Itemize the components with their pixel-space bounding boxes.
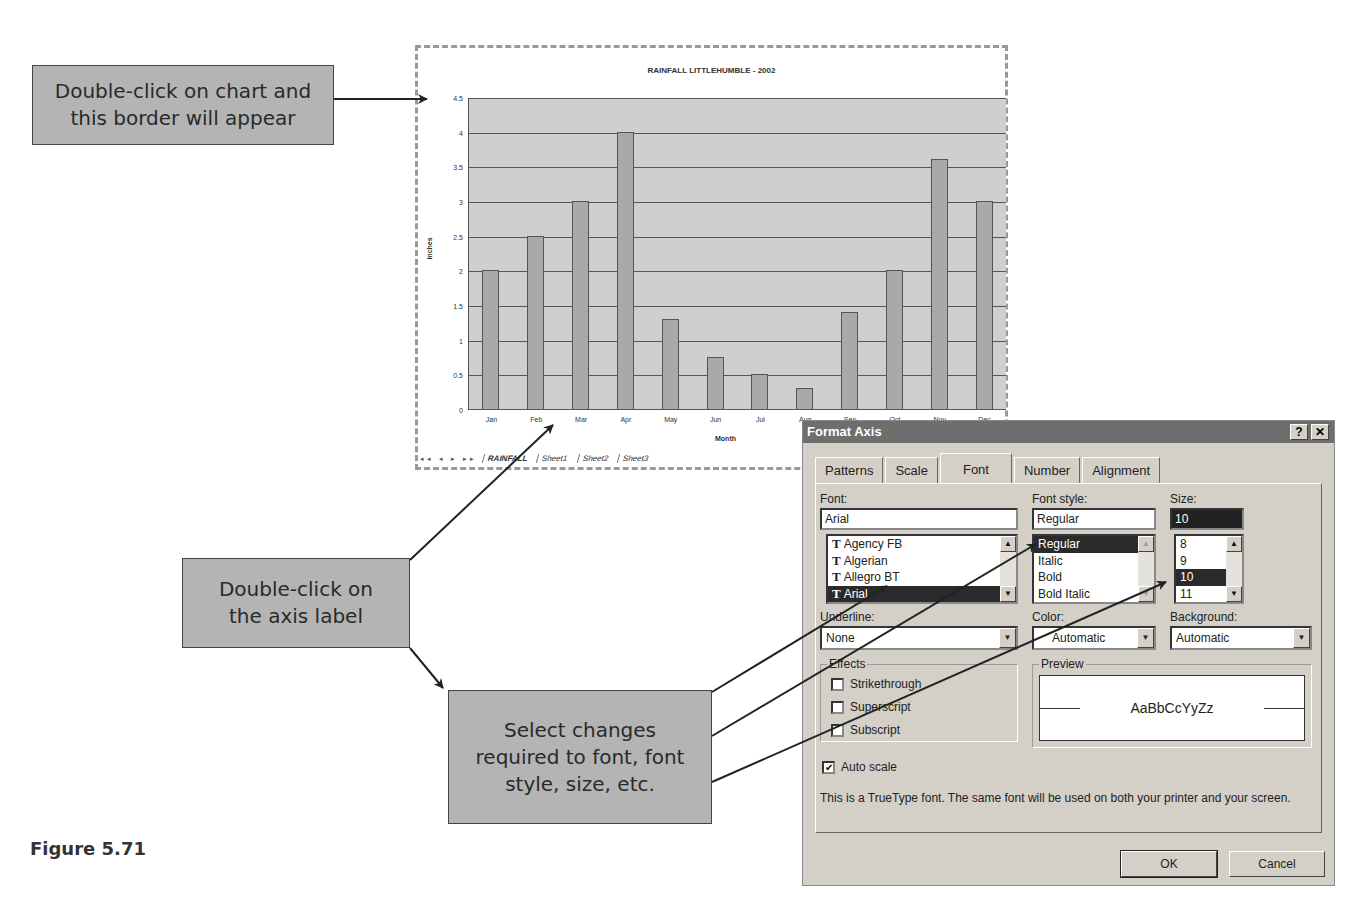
sheet-nav-arrows-icon[interactable]: ◂◂ ◂ ▸ ▸▸ (420, 455, 477, 463)
checkbox-icon[interactable] (831, 678, 844, 691)
y-tick-label[interactable]: 2.5 (439, 233, 463, 240)
bar-jan[interactable] (482, 270, 499, 409)
font-style-option[interactable]: Bold Italic (1034, 586, 1154, 603)
font-style-option[interactable]: Bold (1034, 569, 1154, 586)
bar-oct[interactable] (886, 270, 903, 409)
scroll-down-icon[interactable]: ▼ (1226, 586, 1242, 602)
bar-nov[interactable] (931, 159, 948, 409)
font-input[interactable]: Arial (820, 508, 1018, 530)
x-tick-label[interactable]: Apr (606, 416, 646, 423)
y-axis-title[interactable]: Inches (426, 237, 433, 259)
chevron-down-icon[interactable]: ▼ (999, 628, 1016, 648)
sheet-tab-rainfall[interactable]: RAINFALL (482, 454, 533, 463)
chart-window[interactable]: RAINFALL LITTLEHUMBLE - 2002 Inches 00.5… (415, 45, 1008, 470)
help-button[interactable]: ? (1290, 424, 1308, 440)
gridline[interactable] (469, 167, 1006, 168)
font-tab-panel: Font: Arial TAgency FB TAlgerian TAllegr… (815, 483, 1322, 833)
chart-title[interactable]: RAINFALL LITTLEHUMBLE - 2002 (420, 66, 1003, 75)
size-input[interactable]: 10 (1170, 508, 1244, 530)
checkmark-icon[interactable]: ✔ (822, 761, 835, 774)
chart-area[interactable]: RAINFALL LITTLEHUMBLE - 2002 Inches 00.5… (420, 50, 1003, 449)
bar-feb[interactable] (527, 236, 544, 409)
size-list[interactable]: 8 9 10 11 ▲ ▼ (1174, 534, 1244, 604)
tab-patterns[interactable]: Patterns (815, 457, 883, 483)
plot-area[interactable]: 00.511.522.533.544.5JanFebMarAprMayJunJu… (468, 98, 1006, 410)
background-select[interactable]: Automatic ▼ (1170, 626, 1312, 650)
underline-select[interactable]: None ▼ (820, 626, 1018, 650)
x-tick-label[interactable]: Jun (696, 416, 736, 423)
font-list[interactable]: TAgency FB TAlgerian TAllegro BT TArial … (826, 534, 1018, 604)
bar-sep[interactable] (841, 312, 858, 409)
gridline[interactable] (469, 133, 1006, 134)
bar-apr[interactable] (617, 132, 634, 409)
checkbox-icon[interactable] (831, 701, 844, 714)
bar-jun[interactable] (707, 357, 724, 409)
sheet-tab-sheet2[interactable]: Sheet2 (577, 454, 614, 463)
size-list-scrollbar[interactable]: ▲ ▼ (1226, 536, 1242, 602)
x-axis-title[interactable]: Month (715, 435, 736, 442)
y-tick-label[interactable]: 1 (439, 337, 463, 344)
sheet-tab-sheet3[interactable]: Sheet3 (617, 454, 654, 463)
x-tick-label[interactable]: Feb (516, 416, 556, 423)
auto-scale-checkbox[interactable]: ✔ Auto scale (822, 760, 897, 774)
font-option[interactable]: TAgency FB (828, 536, 1016, 553)
y-tick-label[interactable]: 3 (439, 199, 463, 206)
x-tick-label[interactable]: Jan (471, 416, 511, 423)
dialog-titlebar[interactable]: Format Axis ? ✕ (803, 421, 1334, 443)
bar-may[interactable] (662, 319, 679, 409)
y-tick-label[interactable]: 3.5 (439, 164, 463, 171)
font-option-selected[interactable]: TArial (828, 586, 1016, 603)
strikethrough-checkbox[interactable]: Strikethrough (831, 677, 921, 691)
ok-button[interactable]: OK (1121, 851, 1217, 877)
color-select[interactable]: Automatic ▼ (1032, 626, 1156, 650)
bar-mar[interactable] (572, 201, 589, 409)
gridline[interactable] (469, 341, 1006, 342)
chevron-down-icon[interactable]: ▼ (1293, 628, 1310, 648)
gridline[interactable] (469, 271, 1006, 272)
scroll-up-icon[interactable]: ▲ (1000, 536, 1016, 552)
scroll-down-icon[interactable]: ▼ (1000, 586, 1016, 602)
font-list-scrollbar[interactable]: ▲ ▼ (1000, 536, 1016, 602)
font-style-option-selected[interactable]: Regular (1034, 536, 1138, 553)
preview-baseline-right (1264, 708, 1304, 709)
tab-number[interactable]: Number (1014, 457, 1080, 483)
font-style-option[interactable]: Italic (1034, 553, 1154, 570)
font-style-list[interactable]: Regular Italic Bold Bold Italic ▲ ▼ (1032, 534, 1156, 604)
callout-axis-label: Double-click on the axis label (182, 558, 410, 648)
scroll-up-icon[interactable]: ▲ (1138, 536, 1154, 552)
gridline[interactable] (469, 375, 1006, 376)
y-tick-label[interactable]: 2 (439, 268, 463, 275)
y-tick-label[interactable]: 4.5 (439, 95, 463, 102)
y-tick-label[interactable]: 1.5 (439, 303, 463, 310)
x-tick-label[interactable]: May (651, 416, 691, 423)
bar-jul[interactable] (751, 374, 768, 409)
y-tick-label[interactable]: 0 (439, 407, 463, 414)
tab-alignment[interactable]: Alignment (1082, 457, 1160, 483)
font-style-scrollbar[interactable]: ▲ ▼ (1138, 536, 1154, 602)
gridline[interactable] (469, 306, 1006, 307)
scroll-up-icon[interactable]: ▲ (1226, 536, 1242, 552)
font-option[interactable]: TAllegro BT (828, 569, 1016, 586)
close-button[interactable]: ✕ (1311, 424, 1329, 440)
font-option[interactable]: TAlgerian (828, 553, 1016, 570)
gridline[interactable] (469, 98, 1006, 99)
scroll-down-icon[interactable]: ▼ (1138, 586, 1154, 602)
superscript-checkbox[interactable]: Superscript (831, 700, 911, 714)
x-tick-label[interactable]: Mar (561, 416, 601, 423)
subscript-checkbox[interactable]: Subscript (831, 723, 900, 737)
gridline[interactable] (469, 237, 1006, 238)
cancel-button[interactable]: Cancel (1229, 851, 1325, 877)
font-style-input[interactable]: Regular (1032, 508, 1156, 530)
tab-scale[interactable]: Scale (885, 457, 938, 483)
x-tick-label[interactable]: Jul (740, 416, 780, 423)
gridline[interactable] (469, 202, 1006, 203)
checkbox-icon[interactable] (831, 724, 844, 737)
sheet-tab-sheet1[interactable]: Sheet1 (536, 454, 573, 463)
y-tick-label[interactable]: 0.5 (439, 372, 463, 379)
chevron-down-icon[interactable]: ▼ (1137, 628, 1154, 648)
tab-font[interactable]: Font (940, 453, 1012, 483)
y-tick-label[interactable]: 4 (439, 129, 463, 136)
bar-dec[interactable] (976, 201, 993, 409)
size-option-selected[interactable]: 10 (1176, 569, 1226, 586)
bar-aug[interactable] (796, 388, 813, 409)
